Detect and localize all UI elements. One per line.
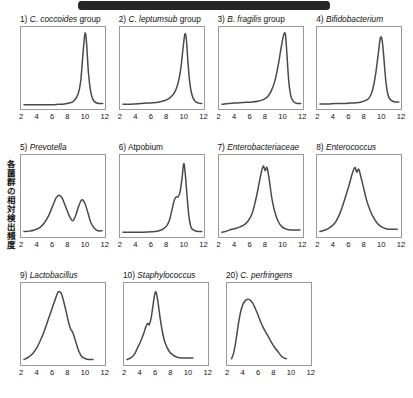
panel-b-fragilis: 3) B. fragilis group24681012	[216, 14, 315, 121]
x-axis-ticks-atpobium: 24681012	[117, 240, 209, 249]
panel-bifidobacterium: 4) Bifidobacterium24681012	[314, 14, 413, 121]
panel-c-perfringens: 20) C. perfringens24681012	[224, 270, 327, 377]
x-axis-ticks-staphylococcus: 24681012	[121, 368, 213, 377]
x-tick-label: 6	[149, 112, 153, 121]
density-curve-svg	[124, 283, 208, 365]
y-axis-label: 各菌群の相対検出頻度	[0, 160, 14, 270]
density-curve-svg	[219, 155, 303, 237]
panel-lactobacillus: 9) Lactobacillus24681012	[18, 270, 121, 377]
panel-taxon-name: Lactobacillus	[30, 270, 78, 280]
x-tick-label: 8	[362, 240, 366, 249]
x-tick-label: 2	[19, 368, 23, 377]
density-curve-b-fragilis	[221, 33, 300, 105]
panel-c-coccoides: 1) C. coccoides group24681012	[18, 14, 117, 121]
x-axis-ticks-lactobacillus: 24681012	[18, 368, 110, 377]
panel-number: 2)	[119, 14, 129, 24]
density-curve-svg	[317, 155, 401, 237]
panel-atpobium: 6) Atpobium24681012	[117, 142, 216, 249]
plot-frame-c-perfringens	[226, 282, 312, 366]
panel-enterococcus: 8) Enterococcus24681012	[314, 142, 413, 249]
panel-title-staphylococcus: 10) Staphylococcus	[121, 270, 224, 282]
panel-title-suffix: group	[261, 14, 285, 24]
panel-row-2: 5) Prevotella246810126) Atpobium24681012…	[18, 142, 413, 249]
density-curve-c-coccoides	[24, 33, 103, 105]
panel-title-bifidobacterium: 4) Bifidobacterium	[314, 14, 413, 26]
x-axis-ticks-c-perfringens: 24681012	[224, 368, 316, 377]
x-tick-label: 4	[34, 112, 38, 121]
panel-staphylococcus: 10) Staphylococcus24681012	[121, 270, 224, 377]
x-tick-label: 12	[298, 112, 306, 121]
panel-title-suffix: Atpobium	[128, 142, 163, 152]
x-tick-label: 10	[81, 240, 89, 249]
x-axis-ticks-enterobacteriaceae: 24681012	[216, 240, 308, 249]
x-tick-label: 4	[232, 112, 236, 121]
density-curve-c-perfringens	[232, 299, 287, 358]
plot-frame-b-fragilis	[218, 26, 304, 110]
x-tick-label: 8	[362, 112, 366, 121]
panel-enterobacteriaceae: 7) Enterobacteriaceae24681012	[216, 142, 315, 249]
panel-title-c-coccoides: 1) C. coccoides group	[18, 14, 117, 26]
density-curve-lactobacillus	[24, 291, 93, 359]
x-axis-ticks-enterococcus: 24681012	[314, 240, 406, 249]
x-tick-label: 6	[256, 368, 260, 377]
plot-frame-prevotella	[20, 154, 106, 238]
panel-title-suffix: group	[77, 14, 101, 24]
x-tick-label: 12	[397, 112, 405, 121]
x-tick-label: 6	[50, 240, 54, 249]
panel-taxon-name: C. leptumsub	[128, 14, 177, 24]
panel-taxon-name: Prevotella	[30, 142, 67, 152]
x-tick-label: 10	[278, 240, 286, 249]
x-tick-label: 6	[50, 368, 54, 377]
plot-frame-staphylococcus	[123, 282, 209, 366]
panel-number: 3)	[218, 14, 228, 24]
panel-taxon-name: C. perfringens	[240, 270, 292, 280]
panel-prevotella: 5) Prevotella24681012	[18, 142, 117, 249]
x-axis-ticks-b-fragilis: 24681012	[216, 112, 308, 121]
panel-number: 9)	[20, 270, 30, 280]
x-tick-label: 6	[153, 368, 157, 377]
x-tick-label: 10	[180, 240, 188, 249]
x-tick-label: 2	[315, 112, 319, 121]
x-tick-label: 8	[164, 112, 168, 121]
x-tick-label: 8	[65, 240, 69, 249]
x-tick-label: 10	[377, 112, 385, 121]
x-tick-label: 6	[149, 240, 153, 249]
x-axis-ticks-bifidobacterium: 24681012	[314, 112, 406, 121]
density-curve-atpobium	[123, 164, 202, 233]
panel-number: 10)	[123, 270, 137, 280]
panel-title-enterobacteriaceae: 7) Enterobacteriaceae	[216, 142, 315, 154]
x-tick-label: 2	[19, 240, 23, 249]
density-curve-staphylococcus	[127, 292, 193, 360]
x-tick-label: 12	[203, 368, 211, 377]
panel-row-3: 9) Lactobacillus2468101210) Staphylococc…	[18, 270, 413, 377]
density-curve-prevotella	[24, 195, 102, 231]
x-tick-label: 2	[315, 240, 319, 249]
x-tick-label: 2	[122, 368, 126, 377]
panel-number: 20)	[226, 270, 240, 280]
x-tick-label: 10	[180, 112, 188, 121]
x-tick-label: 4	[240, 368, 244, 377]
panel-taxon-name: Bifidobacterium	[326, 14, 383, 24]
density-curve-svg	[21, 27, 105, 109]
x-tick-label: 2	[217, 240, 221, 249]
x-tick-label: 2	[19, 112, 23, 121]
panel-title-enterococcus: 8) Enterococcus	[314, 142, 413, 154]
plot-frame-c-coccoides	[20, 26, 106, 110]
x-tick-label: 10	[377, 240, 385, 249]
x-tick-label: 4	[331, 240, 335, 249]
x-tick-label: 12	[199, 112, 207, 121]
x-tick-label: 12	[298, 240, 306, 249]
density-curve-bifidobacterium	[320, 37, 399, 104]
figure-panel-grid: 各菌群の相対検出頻度 1) C. coccoides group24681012…	[0, 10, 413, 398]
panel-taxon-name: C. coccoides	[30, 14, 78, 24]
panel-number: 8)	[316, 142, 326, 152]
x-tick-label: 10	[184, 368, 192, 377]
x-tick-label: 12	[199, 240, 207, 249]
x-tick-label: 6	[247, 112, 251, 121]
density-curve-enterobacteriaceae	[221, 166, 299, 232]
panel-title-suffix: group	[177, 14, 201, 24]
panel-number: 1)	[20, 14, 30, 24]
x-tick-label: 4	[331, 112, 335, 121]
density-curve-svg	[120, 27, 204, 109]
panel-taxon-name: B. fragilis	[227, 14, 261, 24]
